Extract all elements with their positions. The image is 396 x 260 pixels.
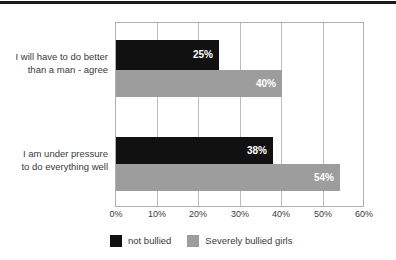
plot-area: 25% 40% 38% 54% bbox=[115, 22, 364, 207]
chart-legend: not bullied Severely bullied girls bbox=[110, 235, 308, 247]
legend-label: not bullied bbox=[128, 236, 171, 246]
legend-swatch-icon bbox=[110, 235, 122, 247]
bar-value-label: 40% bbox=[256, 79, 276, 89]
category-label-0-line-0: I will have to do better bbox=[16, 51, 108, 64]
xtick-label-50: 50% bbox=[314, 210, 332, 219]
bar-severely-bullied-group-1[interactable]: 54% bbox=[116, 164, 340, 191]
legend-label: Severely bullied girls bbox=[205, 236, 292, 246]
xtick-label-40: 40% bbox=[272, 210, 290, 219]
xtick-label-0: 0% bbox=[109, 210, 122, 219]
header-divider-rule bbox=[0, 1, 396, 4]
category-label-1: I am under pressure to do everything wel… bbox=[21, 148, 108, 173]
bar-not-bullied-group-0[interactable]: 25% bbox=[116, 40, 219, 70]
category-label-0: I will have to do better than a man - ag… bbox=[16, 51, 108, 76]
category-label-1-line-1: to do everything well bbox=[21, 161, 108, 174]
bar-value-label: 38% bbox=[247, 146, 267, 156]
bar-value-label: 54% bbox=[314, 173, 334, 183]
legend-item-severely-bullied-girls[interactable]: Severely bullied girls bbox=[187, 235, 308, 247]
category-label-0-line-1: than a man - agree bbox=[16, 64, 108, 77]
bar-not-bullied-group-1[interactable]: 38% bbox=[116, 137, 273, 164]
xtick-label-60: 60% bbox=[355, 210, 373, 219]
xtick-label-30: 30% bbox=[231, 210, 249, 219]
bar-severely-bullied-group-0[interactable]: 40% bbox=[116, 70, 282, 97]
legend-swatch-icon bbox=[187, 235, 199, 247]
legend-item-not-bullied[interactable]: not bullied bbox=[110, 235, 187, 247]
xtick-label-10: 10% bbox=[148, 210, 166, 219]
xtick-label-20: 20% bbox=[189, 210, 207, 219]
chart-figure: 25% 40% 38% 54% I will have to do better… bbox=[0, 0, 396, 260]
bar-value-label: 25% bbox=[193, 50, 213, 60]
category-label-1-line-0: I am under pressure bbox=[21, 148, 108, 161]
